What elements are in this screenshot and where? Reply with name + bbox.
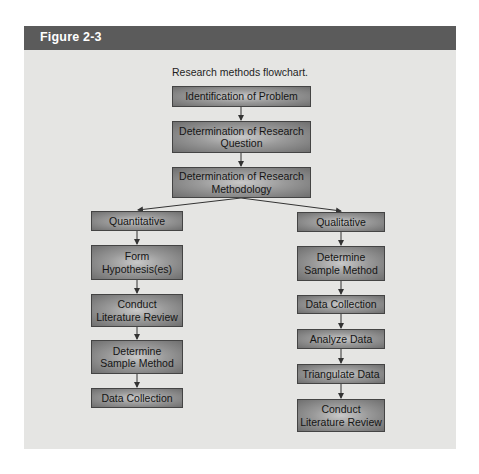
qual-step-conduct-literature-review: Conduct Literature Review (297, 399, 385, 432)
quant-step-conduct-literature-review: Conduct Literature Review (91, 294, 183, 327)
qual-step-analyze-data: Analyze Data (297, 329, 385, 349)
branch-qualitative: Qualitative (297, 212, 385, 232)
step-determination-of-research-methodology: Determination of Research Methodology (172, 167, 311, 198)
quant-step-form-hypotheses: Form Hypothesis(es) (91, 245, 183, 280)
qual-step-data-collection: Data Collection (297, 295, 385, 314)
step-determination-of-research-question: Determination of Research Question (172, 121, 311, 153)
quant-step-data-collection: Data Collection (91, 388, 183, 408)
qual-step-determine-sample-method: Determine Sample Method (297, 246, 385, 281)
figure-caption: Research methods flowchart. (24, 66, 456, 78)
figure-header: Figure 2-3 (24, 26, 456, 50)
qual-step-triangulate-data: Triangulate Data (297, 364, 385, 384)
figure-label: Figure 2-3 (40, 30, 102, 44)
branch-quantitative: Quantitative (91, 211, 183, 231)
step-identification-of-problem: Identification of Problem (172, 86, 311, 107)
quant-step-determine-sample-method: Determine Sample Method (91, 340, 183, 374)
